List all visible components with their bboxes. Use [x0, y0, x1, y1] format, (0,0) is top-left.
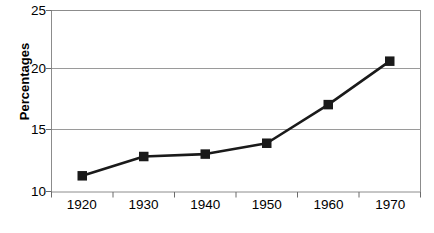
x-axis-tick-labels: 1920 1930 1940 1950 1960 1970	[51, 198, 421, 222]
x-tick-label-1950: 1950	[236, 198, 298, 222]
line-chart: Percentages 25 20 15 10	[0, 0, 434, 233]
x-axis-ticks	[52, 192, 421, 198]
data-point-1920	[78, 171, 88, 181]
data-point-1960	[324, 100, 334, 110]
data-point-1950	[262, 138, 272, 148]
data-point-1940	[201, 149, 211, 159]
plot-frame	[52, 11, 421, 193]
x-tick-label-1970: 1970	[359, 198, 421, 222]
x-tick-label-1940: 1940	[174, 198, 236, 222]
y-axis-ticks	[46, 11, 52, 192]
data-point-1970	[385, 56, 395, 66]
x-tick-label-1960: 1960	[298, 198, 360, 222]
data-point-1930	[139, 152, 149, 162]
x-tick-label-1920: 1920	[51, 198, 113, 222]
x-tick-label-1930: 1930	[113, 198, 175, 222]
